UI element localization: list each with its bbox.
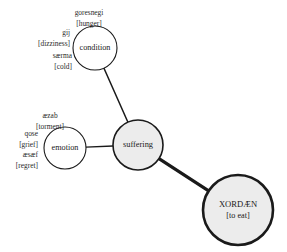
- satellite-aesaef-gloss: [regret]: [16, 161, 38, 170]
- satellite-saerma: særma [cold]: [53, 51, 73, 71]
- satellite-aesaef: æsæf [regret]: [16, 150, 39, 170]
- satellite-qose: qose [grief]: [19, 129, 39, 149]
- satellite-saerma-term: særma: [53, 51, 73, 60]
- satellite-saerma-gloss: [cold]: [54, 62, 72, 71]
- satellite-goresnegi: goresnegi [hunger]: [75, 8, 104, 28]
- satellite-gij-term: gij: [62, 28, 70, 37]
- satellite-aezab-gloss: [torment]: [36, 122, 64, 131]
- node-suffering[interactable]: suffering: [113, 120, 163, 170]
- diagram-canvas: condition emotion suffering XORDÆN [to e…: [0, 0, 287, 252]
- satellite-goresnegi-gloss: [hunger]: [76, 19, 101, 28]
- satellite-aesaef-term: æsæf: [23, 150, 39, 159]
- node-emotion[interactable]: emotion: [44, 127, 86, 169]
- node-xordaen[interactable]: XORDÆN [to eat]: [203, 175, 273, 245]
- semantic-network-diagram: condition emotion suffering XORDÆN [to e…: [0, 0, 287, 252]
- node-emotion-label: emotion: [52, 143, 79, 152]
- satellite-qose-term: qose: [24, 129, 38, 138]
- node-suffering-label: suffering: [123, 140, 154, 149]
- node-xordaen-circle[interactable]: [203, 175, 273, 245]
- satellite-aezab: æzab [torment]: [36, 111, 64, 131]
- satellite-gij-gloss: [dizziness]: [38, 39, 70, 48]
- edge-emotion-suffering: [86, 146, 113, 147]
- satellite-qose-gloss: [grief]: [19, 140, 38, 149]
- node-condition[interactable]: condition: [73, 26, 117, 70]
- satellite-aezab-term: æzab: [42, 111, 57, 120]
- node-layer: condition emotion suffering XORDÆN [to e…: [44, 26, 273, 245]
- satellite-goresnegi-term: goresnegi: [75, 8, 104, 17]
- edge-condition-suffering: [104, 68, 128, 122]
- node-xordaen-gloss: [to eat]: [226, 211, 250, 220]
- node-condition-label: condition: [80, 43, 111, 52]
- satellite-gij: gij [dizziness]: [38, 28, 70, 48]
- edge-suffering-xordaen: [159, 159, 209, 191]
- node-xordaen-label: XORDÆN: [219, 199, 258, 209]
